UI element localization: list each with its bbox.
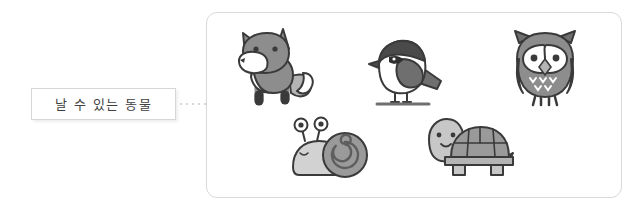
animal-option-snail[interactable]: [285, 115, 377, 183]
owl-illustration: [507, 25, 583, 109]
fox-illustration: [229, 25, 315, 109]
snail-eye-left: [298, 122, 303, 127]
fox-eye-right: [272, 46, 277, 51]
bird-eye: [392, 57, 395, 60]
turtle-illustration: [425, 113, 517, 183]
animal-option-fox[interactable]: [229, 25, 315, 109]
turtle-eye-left: [437, 133, 442, 138]
bird-illustration: [365, 35, 445, 111]
connector-dot: [198, 103, 200, 105]
fox-eye-left: [253, 46, 258, 51]
animal-option-bird[interactable]: [365, 35, 445, 111]
connector-dot: [186, 103, 188, 105]
snail-illustration: [285, 115, 377, 183]
owl-eye-left: [531, 55, 538, 62]
category-label-text: 날 수 있는 동물: [55, 98, 153, 111]
snail-eye-right: [318, 121, 323, 126]
connector-dot: [192, 103, 194, 105]
owl-eye-right: [553, 55, 560, 62]
animal-option-turtle[interactable]: [425, 113, 517, 183]
animal-option-owl[interactable]: [507, 25, 583, 109]
turtle-eye-right: [451, 133, 456, 138]
dotted-connector: [180, 102, 206, 106]
category-label-box[interactable]: 날 수 있는 동물: [31, 88, 176, 120]
animal-choices-panel: [206, 12, 622, 198]
connector-dot: [180, 103, 182, 105]
